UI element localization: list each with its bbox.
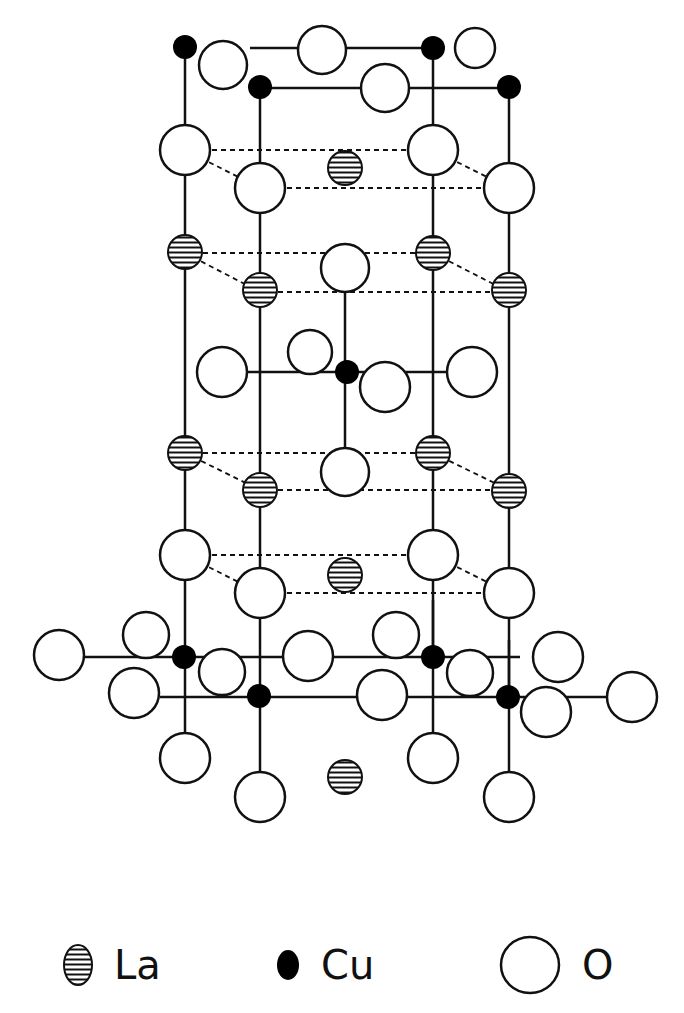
la-atom (168, 436, 202, 470)
o-atom (197, 347, 247, 397)
la-atom (168, 235, 202, 269)
legend-label: La (114, 942, 161, 988)
o-atom (160, 125, 210, 175)
legend-item-cu: Cu (275, 930, 374, 1000)
o-atom (235, 163, 285, 213)
legend-item-la: La (62, 930, 161, 1000)
cu-atom (172, 645, 196, 669)
o-atom (607, 672, 657, 722)
o-atom (321, 448, 369, 496)
o-atom (288, 330, 332, 374)
o-atom (199, 41, 247, 89)
o-atom (321, 244, 369, 292)
o-atom (360, 362, 410, 412)
o-atom (34, 630, 84, 680)
o-atom (298, 26, 346, 74)
la-atom (492, 474, 526, 508)
o-atom (235, 772, 285, 822)
cu-atom (421, 645, 445, 669)
cu-atom (335, 360, 359, 384)
cu-atom (496, 685, 520, 709)
la-atom (416, 236, 450, 270)
la-atom (243, 473, 277, 507)
o-atom (484, 163, 534, 213)
cu-atom (247, 684, 271, 708)
o-atom (455, 28, 495, 68)
cu-atom (248, 75, 272, 99)
filled-circle-icon (275, 942, 301, 988)
la-atom (328, 558, 362, 592)
legend-item-o: O (498, 930, 613, 1000)
la-atom (416, 436, 450, 470)
hatched-circle-icon (62, 942, 94, 988)
la-atom (328, 151, 362, 185)
la-atom (328, 760, 362, 794)
open-circle-icon (498, 934, 562, 996)
o-atom (283, 631, 333, 681)
o-atom (373, 612, 419, 658)
legend-label: Cu (321, 942, 374, 988)
o-atom (235, 568, 285, 618)
o-atom (160, 530, 210, 580)
cu-atom (173, 35, 197, 59)
la-atom (243, 273, 277, 307)
o-atom (484, 568, 534, 618)
o-atom (361, 64, 409, 112)
crystal-structure-diagram (0, 0, 684, 930)
o-atom (484, 772, 534, 822)
legend-label: O (582, 942, 613, 988)
o-atom (160, 733, 210, 783)
o-atom (199, 649, 245, 695)
o-atom (408, 125, 458, 175)
o-atom (408, 530, 458, 580)
o-atom (521, 687, 571, 737)
o-atom (357, 670, 407, 720)
o-atom (447, 347, 497, 397)
o-atom (533, 632, 583, 682)
cu-atom (497, 75, 521, 99)
o-atom (123, 612, 169, 658)
cu-atom (421, 36, 445, 60)
o-atom (109, 668, 159, 718)
legend: La Cu O (0, 930, 684, 1000)
o-atom (408, 733, 458, 783)
o-atom (447, 650, 493, 696)
la-atom (492, 273, 526, 307)
